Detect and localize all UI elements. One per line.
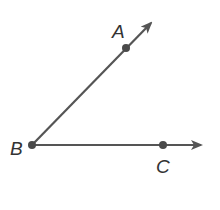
angle-diagram: A B C xyxy=(0,0,220,210)
ray-ba-line xyxy=(32,23,151,145)
label-b: B xyxy=(10,138,23,159)
point-a xyxy=(122,44,130,52)
point-b xyxy=(28,141,36,149)
label-c: C xyxy=(156,156,170,177)
label-a: A xyxy=(111,21,125,42)
point-c xyxy=(159,141,167,149)
